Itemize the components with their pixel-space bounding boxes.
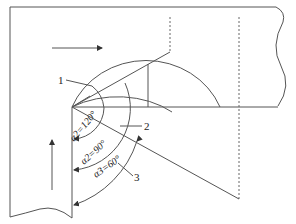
callout-label-1: 1 [58,74,64,86]
vertical-pipe [10,107,72,218]
dashed-guides [170,17,239,200]
callout-label-3: 3 [134,171,140,183]
callout-label-2: 2 [144,120,150,132]
angle-arcs [72,60,220,205]
elbow-diagram: 1 2 3 α2=120° α2=90° α3=60° [0,0,296,224]
